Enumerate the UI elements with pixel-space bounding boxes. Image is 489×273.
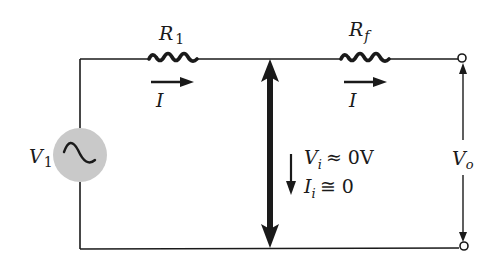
zigzag-icon	[149, 54, 197, 62]
current-arrow-r1: I	[151, 77, 194, 111]
arrowhead-icon	[373, 77, 387, 87]
virtual-ground-arrow	[261, 59, 279, 248]
input-current-arrow	[286, 154, 296, 195]
ac-source: V1	[29, 128, 107, 182]
thick-shaft	[267, 72, 273, 234]
source-label: V1	[29, 145, 53, 170]
terminal-bottom	[460, 242, 468, 250]
r1-label: R1	[158, 22, 184, 47]
arrowhead-icon	[286, 181, 296, 195]
resistor-rf: Rf	[341, 18, 389, 61]
circuit-diagram: R1 Rf I I V1 Vi≈ 0V Ii≅ 0	[0, 0, 489, 273]
wire-bottom	[80, 248, 459, 249]
terminal-top	[458, 54, 466, 62]
arrowhead-icon	[180, 77, 194, 87]
arrow-up-icon	[459, 63, 467, 74]
resistor-r1: R1	[149, 22, 197, 61]
vo-label: Vo	[452, 147, 474, 172]
arrow-down-icon	[459, 232, 467, 242]
ii-label: Ii≅ 0	[303, 175, 354, 201]
current-label-rf: I	[348, 89, 357, 111]
zigzag-icon	[341, 54, 389, 62]
vi-label: Vi≈ 0V	[304, 146, 374, 172]
rf-label: Rf	[348, 18, 372, 44]
output-terminals: Vo	[452, 54, 474, 250]
current-arrow-rf: I	[344, 77, 387, 111]
current-label-r1: I	[155, 89, 164, 111]
